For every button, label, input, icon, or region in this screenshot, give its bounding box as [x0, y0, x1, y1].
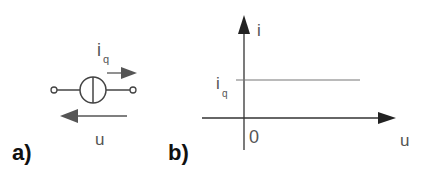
- panel-a: i q u a): [12, 40, 137, 165]
- origin-label: 0: [249, 127, 259, 147]
- diagram-canvas: i q u a) i u i q 0 b): [0, 0, 422, 175]
- y-axis-label: i: [257, 21, 261, 40]
- iq-level-label: i: [216, 74, 220, 93]
- voltage-label: u: [95, 130, 104, 149]
- arrow-right-icon: [121, 67, 137, 79]
- y-axis-arrow-icon: [238, 15, 250, 34]
- left-terminal-icon: [51, 87, 57, 93]
- iq-level-subscript: q: [222, 88, 228, 99]
- current-label: i: [97, 40, 101, 60]
- current-subscript: q: [103, 53, 109, 65]
- arrow-left-icon: [60, 109, 78, 123]
- right-terminal-icon: [130, 87, 136, 93]
- voltage-arrow: [60, 109, 127, 123]
- current-source-symbol: [51, 77, 136, 103]
- panel-a-label: a): [12, 140, 32, 165]
- panel-b: i u i q 0 b): [168, 15, 409, 165]
- panel-b-label: b): [168, 140, 189, 165]
- x-axis-label: u: [400, 131, 409, 150]
- x-axis-arrow-icon: [378, 112, 396, 124]
- current-arrow: [107, 67, 137, 79]
